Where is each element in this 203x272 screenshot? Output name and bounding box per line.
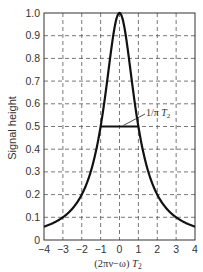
x-tick-label: 4 bbox=[192, 243, 198, 255]
x-tick-label: 2 bbox=[154, 243, 160, 255]
x-axis-ticks: −4−3−2−101234 bbox=[38, 243, 198, 255]
y-tick-label: 0.2 bbox=[25, 188, 40, 200]
y-tick-label: 0.5 bbox=[25, 120, 40, 132]
x-tick-label: −2 bbox=[76, 243, 88, 255]
x-tick-label: −1 bbox=[95, 243, 107, 255]
x-tick-label: −3 bbox=[57, 243, 69, 255]
y-tick-label: 0.4 bbox=[25, 143, 40, 155]
x-tick-label: 1 bbox=[135, 243, 141, 255]
half-width-label: 1/π T2 bbox=[146, 107, 171, 120]
y-tick-label: 0.3 bbox=[25, 165, 40, 177]
annotation-leader-line bbox=[123, 114, 145, 125]
y-tick-label: 0.1 bbox=[25, 211, 40, 223]
y-axis-ticks: 00.10.20.30.40.50.60.70.80.91.0 bbox=[25, 7, 40, 246]
x-axis-label: (2πν−ω) T2 bbox=[94, 258, 142, 271]
y-tick-label: 1.0 bbox=[25, 7, 40, 19]
x-tick-label: −4 bbox=[38, 243, 50, 255]
y-tick-label: 0.7 bbox=[25, 75, 40, 87]
x-tick-label: 3 bbox=[173, 243, 179, 255]
y-axis-label: Signal height bbox=[6, 96, 18, 160]
y-tick-label: 0.9 bbox=[25, 29, 40, 41]
lorentzian-chart: 00.10.20.30.40.50.60.70.80.91.0 −4−3−2−1… bbox=[0, 0, 203, 272]
x-tick-label: 0 bbox=[117, 243, 123, 255]
y-tick-label: 0.8 bbox=[25, 52, 40, 64]
y-tick-label: 0.6 bbox=[25, 97, 40, 109]
